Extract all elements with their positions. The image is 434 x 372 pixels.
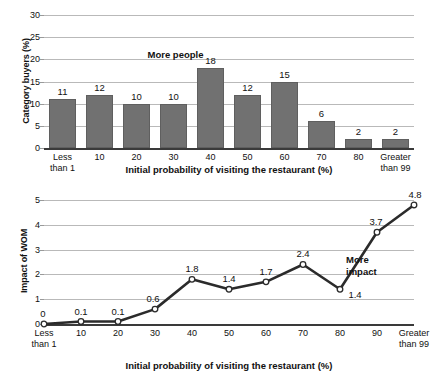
bar <box>308 121 335 148</box>
x-axis-tick-label: 40 <box>187 328 197 338</box>
data-point-value-label: 4.8 <box>408 189 421 200</box>
bar <box>160 104 187 148</box>
x-axis-tick-label: 90 <box>372 328 382 338</box>
bar <box>86 95 113 148</box>
x-axis-tick-label: Greater <box>399 328 430 338</box>
bar <box>123 104 150 148</box>
data-point-marker <box>78 319 84 325</box>
x-axis-tick-label: 70 <box>298 328 308 338</box>
bar-value-label: 6 <box>303 108 340 119</box>
data-point-marker <box>189 277 195 283</box>
x-axis-category: Greaterthan 99 <box>390 328 434 349</box>
bar-chart-panel: Category buyers (%) 05101520253011Lessth… <box>0 0 421 190</box>
x-axis-tick-label: 10 <box>94 152 104 162</box>
x-axis-tick-label: 50 <box>224 328 234 338</box>
x-axis-tick-label: 60 <box>279 152 289 162</box>
bar <box>49 99 76 148</box>
data-point-value-label: 0.6 <box>146 293 159 304</box>
line-plot-area: 01234500.10.10.61.81.41.72.41.43.74.8Les… <box>44 200 414 324</box>
data-point-value-label: 3.7 <box>369 216 382 227</box>
data-point-marker <box>41 321 47 327</box>
bar-value-label: 2 <box>340 126 377 137</box>
y-axis-tick-mark <box>40 126 44 127</box>
chart-annotation-more-impact-line1: More <box>346 254 369 266</box>
y-axis-tick-mark <box>40 37 44 38</box>
data-point-value-label: 1.4 <box>348 289 361 300</box>
y-axis-tick-label: 30 <box>30 10 40 20</box>
y-axis-tick-label: 25 <box>30 32 40 42</box>
bottom-x-axis-title: Initial probability of visiting the rest… <box>44 360 414 371</box>
y-axis-tick-mark <box>40 15 44 16</box>
data-point-value-label: 0.1 <box>111 306 124 317</box>
data-point-marker <box>411 202 417 208</box>
data-point-marker <box>263 279 269 285</box>
x-axis-tick-label: Less <box>34 328 53 338</box>
x-axis-tick-label: 40 <box>205 152 215 162</box>
x-axis-tick-label-line2: than 1 <box>20 339 68 350</box>
x-axis-tick-label: Greater <box>380 152 411 162</box>
bar-value-label: 12 <box>229 82 266 93</box>
chart-annotation-more-people: More people <box>148 49 204 61</box>
bar <box>234 95 261 148</box>
data-point-marker <box>374 229 380 235</box>
y-axis-tick-label: 20 <box>30 54 40 64</box>
x-axis-tick-label: 60 <box>261 328 271 338</box>
gridline <box>44 15 414 16</box>
x-axis-tick-label: 80 <box>353 152 363 162</box>
x-axis-tick-label: 50 <box>242 152 252 162</box>
data-point-value-label: 0 <box>40 308 45 319</box>
line-chart-panel: Impact of WOM 01234500.10.10.61.81.41.72… <box>0 186 421 372</box>
x-axis-line <box>44 148 414 150</box>
data-point-marker <box>226 286 232 292</box>
data-point-value-label: 2.4 <box>296 248 309 259</box>
bar <box>382 139 409 148</box>
bar <box>197 68 224 148</box>
bar-value-label: 15 <box>266 69 303 80</box>
top-x-axis-title: Initial probability of visiting the rest… <box>44 164 414 175</box>
bottom-y-axis-title: Impact of WOM <box>19 201 29 321</box>
gridline <box>44 37 414 38</box>
x-axis-tick-label: 30 <box>150 328 160 338</box>
data-point-value-label: 1.8 <box>185 263 198 274</box>
x-axis-tick-label: 30 <box>168 152 178 162</box>
bar-plot-area: 05101520253011Lessthan 11210102010301840… <box>44 15 414 148</box>
x-axis-tick-label: 20 <box>113 328 123 338</box>
data-point-marker <box>300 262 306 268</box>
y-axis-tick-mark <box>40 59 44 60</box>
bar-value-label: 10 <box>118 91 155 102</box>
data-point-value-label: 1.7 <box>259 266 272 277</box>
x-axis-tick-label: 80 <box>335 328 345 338</box>
x-axis-tick-label: 70 <box>316 152 326 162</box>
gridline <box>44 59 414 60</box>
bar <box>345 139 372 148</box>
x-axis-tick-label: 10 <box>76 328 86 338</box>
y-axis-tick-label: 10 <box>30 99 40 109</box>
x-axis-tick-label-line2: than 99 <box>390 339 434 350</box>
bar <box>271 82 298 149</box>
x-axis-tick-label: 20 <box>131 152 141 162</box>
data-point-value-label: 0.1 <box>74 306 87 317</box>
data-point-marker <box>337 286 343 292</box>
bar-value-label: 2 <box>377 126 414 137</box>
x-axis-tick-label: Less <box>53 152 72 162</box>
y-axis-tick-mark <box>40 82 44 83</box>
y-axis-tick-mark <box>40 104 44 105</box>
y-axis-tick-label: 15 <box>30 77 40 87</box>
bar-value-label: 11 <box>44 86 81 97</box>
data-point-marker <box>152 306 158 312</box>
bar-value-label: 12 <box>81 82 118 93</box>
bar-value-label: 10 <box>155 91 192 102</box>
data-point-marker <box>115 319 121 325</box>
chart-annotation-more-impact-line2: impact <box>346 266 377 278</box>
data-point-value-label: 1.4 <box>222 273 235 284</box>
